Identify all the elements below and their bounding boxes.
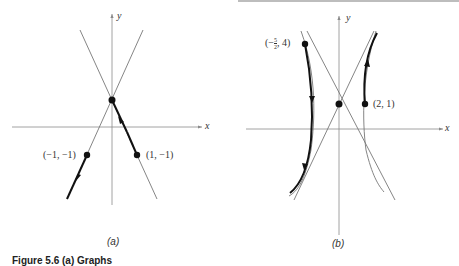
panel-b-hyperbola-right-thin	[364, 31, 384, 192]
panel-a-y-label: y	[117, 10, 121, 21]
panel-b-point-neg5half-4	[302, 41, 308, 47]
panel-a-graph	[12, 14, 202, 205]
panel-b-y-label: y	[346, 12, 350, 23]
panel-a-point-label-neg1-neg1: (−1, −1)	[43, 149, 76, 160]
panel-a-x-label: x	[205, 120, 209, 131]
panel-b-point-label-neg5half-4: (−52, 4)	[265, 37, 290, 50]
label-suffix: , 4)	[277, 37, 290, 48]
panel-a-point-1-neg1	[134, 152, 140, 158]
panel-b-line-2	[294, 31, 374, 200]
panel-a-point-neg1-neg1	[84, 152, 90, 158]
panel-b-trajectory-left	[290, 44, 312, 193]
figure-caption: Figure 5.6 (a) Graphs	[12, 255, 112, 266]
panel-a-point-label-1-neg1: (1, −1)	[146, 149, 173, 160]
panel-b-trajectory-right	[364, 33, 377, 104]
panel-b-origin-point	[336, 101, 343, 108]
label-prefix: (−	[265, 37, 274, 48]
panel-a-origin-point	[109, 97, 116, 104]
panel-b-line-1	[307, 31, 395, 200]
panel-b-hyperbola-left-thin	[289, 31, 314, 196]
panel-b-x-label: x	[445, 122, 449, 133]
panel-b-point-label-2-1: (2, 1)	[373, 98, 395, 109]
panel-b-point-2-1	[362, 101, 368, 107]
panel-b-label: (b)	[332, 238, 344, 249]
panel-a-label: (a)	[107, 236, 119, 247]
